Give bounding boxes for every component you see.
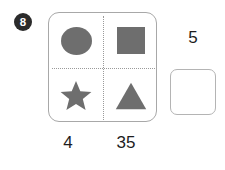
grid-cell-bottom-left: [49, 68, 103, 123]
column-total-left: 4: [54, 133, 82, 153]
puzzle-canvas: 8 4 35 5: [0, 0, 225, 170]
circle-icon: [61, 27, 92, 55]
triangle-icon: [115, 82, 147, 110]
grid-cell-top-right: [104, 13, 158, 68]
row-total-top: 5: [170, 28, 216, 48]
answer-input-box[interactable]: [170, 69, 216, 115]
grid-cell-bottom-right: [104, 68, 158, 123]
grid-cell-top-left: [49, 13, 103, 68]
column-total-right: 35: [106, 133, 146, 153]
shape-grid-panel: [48, 12, 157, 122]
star-icon: [60, 80, 92, 111]
square-icon: [117, 27, 145, 54]
question-number-badge: 8: [14, 13, 32, 31]
